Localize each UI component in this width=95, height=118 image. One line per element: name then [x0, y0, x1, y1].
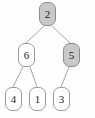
tree-node-label: 3 [59, 94, 65, 105]
tree-edge-n6-n4 [13, 67, 23, 87]
tree-node-label: 4 [11, 94, 17, 105]
tree-node-leaf-3[interactable]: 3 [53, 87, 70, 111]
tree-node-right-child[interactable]: 5 [63, 43, 80, 67]
tree-edge-n6-n1 [30, 67, 37, 87]
tree-node-label: 5 [69, 50, 75, 61]
tree-node-root[interactable]: 2 [39, 2, 56, 26]
tree-edge-n5-n3 [61, 67, 69, 87]
tree-edge-root-n5 [52, 26, 70, 43]
tree-edge-root-n6 [26, 26, 44, 43]
binary-tree-diagram: 2 6 5 4 1 3 [0, 0, 95, 118]
tree-node-leaf-1[interactable]: 4 [5, 87, 22, 111]
tree-node-label: 2 [45, 9, 51, 20]
tree-node-label: 1 [35, 94, 41, 105]
tree-node-label: 6 [24, 50, 30, 61]
tree-node-left-child[interactable]: 6 [18, 43, 35, 67]
tree-node-leaf-2[interactable]: 1 [29, 87, 46, 111]
